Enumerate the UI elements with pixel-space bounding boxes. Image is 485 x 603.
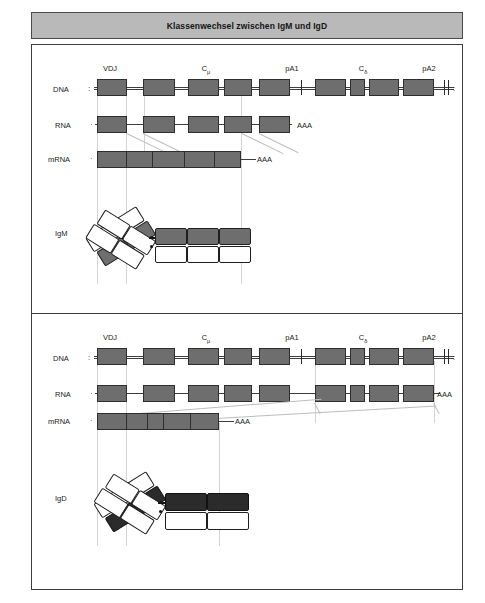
panel-igm: VDJ Cμ pA1 Cδ pA2 DNA RNA mRNA IgM : [0, 0, 485, 313]
dna-exon-cdelta-1 [315, 348, 346, 365]
dna-exon-cmu-3 [224, 79, 252, 96]
dna-exon-vdj [97, 348, 127, 365]
row-label-igd: IgD [55, 494, 67, 503]
rna-exon-cmu-1 [143, 116, 175, 133]
rna-exon-cmu-3 [224, 385, 252, 402]
c-mu-subscript: μ [207, 338, 210, 344]
dna-exon-cdelta-3 [369, 79, 399, 96]
c-delta-subscript: δ [364, 338, 367, 344]
c-delta-subscript: δ [364, 69, 367, 75]
column-header-c-mu: Cμ [202, 64, 211, 75]
mrna-segment-divider [147, 414, 148, 429]
mrna-segment-divider [152, 152, 153, 167]
dna-exon-cmu-1 [143, 79, 175, 96]
column-header-c-delta: Cδ [359, 333, 368, 344]
dna-right-end: : [453, 85, 455, 93]
row-label-rna: RNA [55, 121, 71, 130]
dna-exon-cmu-4 [259, 348, 290, 365]
rna-polya-tail: AAA [297, 121, 312, 130]
dna-exon-cdelta-2 [350, 348, 365, 365]
mrna-segment-divider [163, 414, 164, 429]
rna-exon-vdj [97, 116, 127, 133]
column-header-vdj: VDJ [103, 333, 117, 342]
igd-fc-heavy-domain-1 [165, 493, 207, 511]
mrna-segment-divider [126, 152, 127, 167]
dna-exon-cmu-2 [188, 79, 219, 96]
rna-exon-cmu-4 [259, 385, 290, 402]
rna-left-end: · [90, 390, 93, 398]
igm-fc-heavy-domain-2 [187, 228, 219, 245]
dna-exon-cdelta-1 [315, 79, 346, 96]
mrna-left-end: · [90, 155, 93, 163]
column-header-vdj: VDJ [103, 64, 117, 73]
mrna-segment-divider [184, 152, 185, 167]
mrna-rail [219, 421, 234, 422]
column-header-c-delta: Cδ [359, 64, 368, 75]
mrna-segment-divider [190, 414, 191, 429]
mrna-segment-divider [126, 414, 127, 429]
dna-exon-cdelta-4 [403, 348, 434, 365]
igm-fc-heavy-domain-1 [155, 228, 187, 245]
column-header-pa2: pA2 [422, 64, 435, 73]
dna-exon-cdelta-3 [369, 348, 399, 365]
mrna-bar [97, 151, 241, 168]
rna-exon-cdelta-3 [369, 385, 399, 402]
dna-exon-cmu-3 [224, 348, 252, 365]
dna-exon-cmu-2 [188, 348, 219, 365]
mrna-segment-divider [214, 152, 215, 167]
dna-exon-cdelta-4 [403, 79, 434, 96]
rna-exon-cmu-2 [188, 385, 219, 402]
dna-exon-cmu-4 [259, 79, 290, 96]
row-label-dna: DNA [53, 354, 69, 363]
mrna-polya-tail: AAA [235, 417, 250, 426]
row-label-dna: DNA [53, 85, 69, 94]
column-header-pa1: pA1 [285, 333, 298, 342]
column-header-pa2: pA2 [422, 333, 435, 342]
dna-pa2-tick-b [448, 80, 449, 95]
dna-exon-cdelta-2 [350, 79, 365, 96]
row-label-mrna: mRNA [48, 155, 70, 164]
igm-fc-light-domain-3 [219, 246, 251, 263]
igm-fc-light-domain-2 [187, 246, 219, 263]
dna-exon-vdj [97, 79, 127, 96]
dna-pa2-tick-b [448, 349, 449, 364]
rna-exon-cdelta-4 [403, 385, 434, 402]
dna-left-end: : [88, 354, 90, 362]
rna-exon-cmu-4 [259, 116, 290, 133]
column-header-c-mu: Cμ [202, 333, 211, 344]
column-header-pa1: pA1 [285, 64, 298, 73]
dna-pa1-tick [301, 349, 302, 364]
rna-exon-cmu-2 [188, 116, 219, 133]
dna-exon-cmu-1 [143, 348, 175, 365]
dna-pa2-tick-a [444, 80, 445, 95]
igm-hinge-dot [150, 245, 153, 248]
igd-fc-heavy-domain-2 [207, 493, 249, 511]
mrna-polya-tail: AAA [257, 155, 272, 164]
igm-fc-heavy-domain-3 [219, 228, 251, 245]
c-mu-subscript: μ [207, 69, 210, 75]
igm-fc-light-domain-1 [155, 246, 187, 263]
alignment-guide [434, 361, 435, 423]
row-label-rna: RNA [55, 390, 71, 399]
rna-exon-vdj [97, 385, 127, 402]
panel-igd: VDJ Cμ pA1 Cδ pA2 DNA RNA mRNA IgD : [0, 313, 485, 590]
row-label-mrna: mRNA [48, 417, 70, 426]
igd-fc-light-domain-2 [207, 512, 249, 530]
igd-hinge-dot [159, 510, 162, 513]
rna-exon-cmu-3 [224, 116, 252, 133]
rna-exon-cmu-1 [143, 385, 175, 402]
rna-polya-tail: AAA [437, 390, 452, 399]
dna-right-end: : [453, 354, 455, 362]
row-label-igm: IgM [55, 229, 68, 238]
mrna-bar [97, 413, 219, 430]
figure-page: Klassenwechsel zwischen IgM und IgD VDJ … [0, 0, 485, 603]
rna-left-end: · [90, 121, 93, 129]
mrna-rail [241, 159, 256, 160]
dna-pa2-tick-a [444, 349, 445, 364]
igd-fc-light-domain-1 [165, 512, 207, 530]
rna-exon-cdelta-2 [350, 385, 365, 402]
dna-left-end: : [88, 85, 90, 93]
dna-pa1-tick [301, 80, 302, 95]
mrna-left-end: · [90, 417, 93, 425]
